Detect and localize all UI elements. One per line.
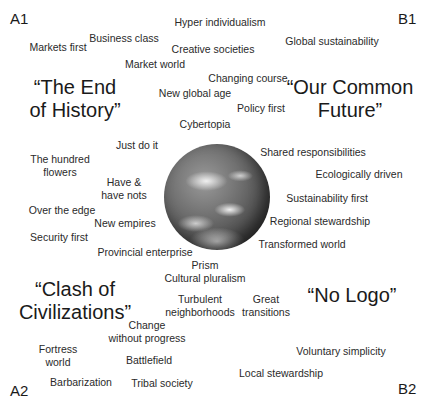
title-line: “Our Common <box>287 76 414 99</box>
title-line: “The End <box>29 76 120 99</box>
corner-label-a2: A2 <box>10 382 28 399</box>
scenario-label: Ecologically driven <box>316 168 403 181</box>
earth-globe-image <box>164 144 270 250</box>
scenario-label: Sustainability first <box>286 192 368 205</box>
scenario-label: New global age <box>159 87 231 100</box>
scenario-label-multiline: Great transitions <box>242 293 290 318</box>
quadrant-title-a1: “The End of History” <box>29 76 120 122</box>
label-line: Change <box>108 319 185 332</box>
scenario-label: Security first <box>30 231 88 244</box>
scenario-label: Cultural pluralism <box>164 272 245 285</box>
scenario-label: Changing course <box>208 72 287 85</box>
label-line: without progress <box>108 332 185 345</box>
scenario-label: Local stewardship <box>239 367 323 380</box>
label-line: world <box>39 356 78 369</box>
label-line: Fortress <box>39 343 78 356</box>
scenario-label-multiline: Turbulent neighborhoods <box>165 293 234 318</box>
scenario-label: Voluntary simplicity <box>296 345 385 358</box>
corner-label-b2: B2 <box>398 380 416 397</box>
corner-label-b1: B1 <box>398 10 416 27</box>
label-line: Great <box>242 293 290 306</box>
scenario-label: Shared responsibilities <box>260 146 366 159</box>
quadrant-title-b1: “Our Common Future” <box>287 76 414 122</box>
scenario-label: Barbarization <box>50 376 112 389</box>
title-line: of History” <box>29 99 120 122</box>
scenario-quadrant-diagram: A1 B1 A2 B2 “The End of History” “Our Co… <box>0 0 426 413</box>
scenario-label-multiline: Change without progress <box>108 319 185 344</box>
label-line: Turbulent <box>165 293 234 306</box>
scenario-label: Market world <box>125 58 185 71</box>
scenario-label: Provincial enterprise <box>97 246 192 259</box>
scenario-label: Cybertopia <box>180 118 231 131</box>
scenario-label: New empires <box>94 217 155 230</box>
label-line: The hundred <box>30 153 90 166</box>
scenario-label-multiline: Fortress world <box>39 343 78 368</box>
quadrant-title-a2: “Clash of Civilizations” <box>19 278 131 324</box>
title-line: “Clash of <box>19 278 131 301</box>
title-line: “No Logo” <box>308 284 397 307</box>
scenario-label-multiline: Have & have nots <box>101 176 147 201</box>
scenario-label: Policy first <box>237 102 285 115</box>
scenario-label: Battlefield <box>126 354 172 367</box>
scenario-label: Global sustainability <box>285 35 378 48</box>
label-line: neighborhoods <box>165 306 234 319</box>
label-line: have nots <box>101 189 147 202</box>
scenario-label: Over the edge <box>29 204 96 217</box>
scenario-label: Just do it <box>116 139 158 152</box>
scenario-label: Tribal society <box>131 377 192 390</box>
scenario-label: Regional stewardship <box>270 215 370 228</box>
corner-label-a1: A1 <box>10 10 28 27</box>
scenario-label: Business class <box>89 32 158 45</box>
scenario-label-multiline: The hundred flowers <box>30 153 90 178</box>
label-line: transitions <box>242 306 290 319</box>
scenario-label: Creative societies <box>172 43 255 56</box>
scenario-label: Hyper individualism <box>174 16 265 29</box>
scenario-label: Prism <box>192 259 219 272</box>
scenario-label: Markets first <box>29 41 86 54</box>
label-line: Have & <box>101 176 147 189</box>
quadrant-title-b2: “No Logo” <box>308 284 397 307</box>
title-line: Future” <box>287 99 414 122</box>
scenario-label: Transformed world <box>258 238 345 251</box>
label-line: flowers <box>30 166 90 179</box>
